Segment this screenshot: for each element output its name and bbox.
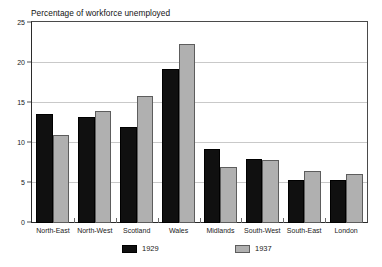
y-axis-tick-label: 5 xyxy=(21,179,25,186)
x-axis-group-separator xyxy=(200,218,201,223)
legend-swatch-1937 xyxy=(235,245,250,253)
bar-north-east-1937 xyxy=(53,135,70,223)
bars-layer xyxy=(32,22,367,223)
x-axis-label-south-east: South-East xyxy=(287,226,322,235)
legend-item-1929[interactable]: 1929 xyxy=(122,244,159,253)
legend-item-1937[interactable]: 1937 xyxy=(235,244,272,253)
x-axis-label-north-east: North-East xyxy=(36,226,69,235)
bar-scotland-1929 xyxy=(120,127,137,223)
x-axis-label-south-west: South-West xyxy=(244,226,280,235)
y-axis-tick-label: 25 xyxy=(17,19,25,26)
x-axis-label-wales: Wales xyxy=(169,226,188,235)
bar-group xyxy=(200,22,242,223)
bar-wales-1929 xyxy=(162,69,179,223)
legend-label-1929: 1929 xyxy=(142,244,159,253)
bar-wales-1937 xyxy=(179,44,196,223)
legend-swatch-1929 xyxy=(122,245,137,253)
bar-south-west-1929 xyxy=(246,159,263,223)
x-axis-group-separator xyxy=(283,218,284,223)
x-axis-label-north-west: North-West xyxy=(77,226,112,235)
bar-london-1937 xyxy=(346,174,363,223)
unemployment-bar-chart: Percentage of workforce unemployed 05101… xyxy=(0,0,382,267)
bar-north-west-1937 xyxy=(95,111,112,223)
bar-midlands-1937 xyxy=(220,167,237,223)
x-axis-group-separator xyxy=(158,218,159,223)
x-axis-group-separator xyxy=(116,218,117,223)
bar-scotland-1937 xyxy=(137,96,154,223)
bar-south-east-1937 xyxy=(304,171,321,223)
bar-group xyxy=(158,22,200,223)
x-axis-label-midlands: Midlands xyxy=(206,226,234,235)
bar-midlands-1929 xyxy=(204,149,221,223)
x-axis-group-separator xyxy=(325,218,326,223)
bar-group xyxy=(116,22,158,223)
y-axis-tick-label: 20 xyxy=(17,59,25,66)
x-axis-label-london: London xyxy=(334,226,357,235)
y-axis-tick-label: 15 xyxy=(17,99,25,106)
y-axis-tick-label: 0 xyxy=(21,219,25,226)
bar-north-east-1929 xyxy=(36,114,53,223)
bar-south-west-1937 xyxy=(262,160,279,223)
chart-title: Percentage of workforce unemployed xyxy=(31,8,170,19)
legend-label-1937: 1937 xyxy=(255,244,272,253)
bar-london-1929 xyxy=(330,180,347,223)
y-axis: 0510152025 xyxy=(0,21,31,223)
bar-group xyxy=(325,22,367,223)
x-axis-group-separator xyxy=(241,218,242,223)
bar-south-east-1929 xyxy=(288,180,305,223)
bar-north-west-1929 xyxy=(78,117,95,223)
bar-group xyxy=(32,22,74,223)
y-axis-tick-label: 10 xyxy=(17,139,25,146)
bar-group xyxy=(283,22,325,223)
bar-group xyxy=(74,22,116,223)
chart-legend: 19291937 xyxy=(0,244,382,258)
x-axis-label-scotland: Scotland xyxy=(123,226,150,235)
bar-group xyxy=(241,22,283,223)
x-axis-group-separator xyxy=(74,218,75,223)
x-axis: North-EastNorth-WestScotlandWalesMidland… xyxy=(32,226,367,238)
